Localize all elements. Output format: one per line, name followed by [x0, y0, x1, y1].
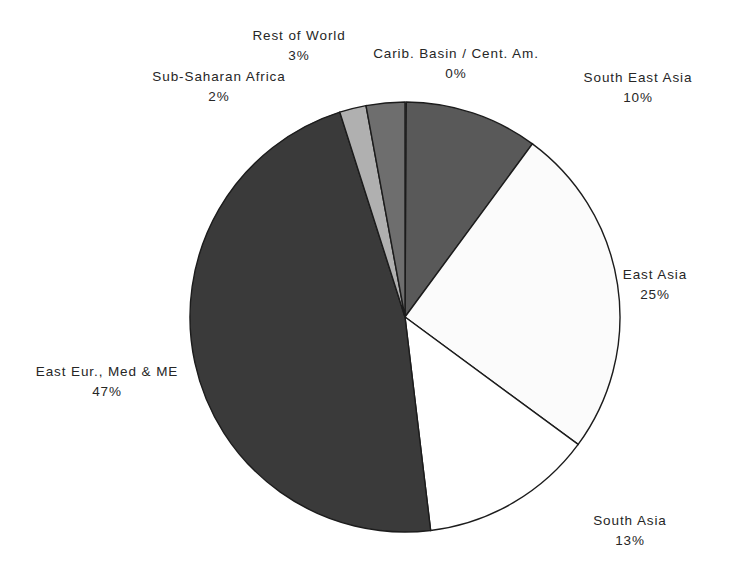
pie-label-name: South Asia	[545, 511, 715, 531]
pie-label-percent: 2%	[109, 87, 329, 107]
pie-label-south-asia: South Asia 13%	[545, 511, 715, 550]
pie-label-percent: 25%	[580, 285, 730, 305]
pie-label-name: Rest of World	[209, 26, 389, 46]
pie-label-sub-saharan-africa: Sub-Saharan Africa 2%	[109, 67, 329, 106]
pie-label-percent: 10%	[538, 88, 738, 108]
pie-label-percent: 47%	[2, 382, 212, 402]
pie-label-east-eur-med-me: East Eur., Med & ME 47%	[2, 362, 212, 401]
pie-label-name: East Eur., Med & ME	[2, 362, 212, 382]
pie-label-south-east-asia: South East Asia 10%	[538, 68, 738, 107]
pie-slice-group	[190, 102, 620, 532]
pie-label-name: South East Asia	[538, 68, 738, 88]
pie-label-name: Sub-Saharan Africa	[109, 67, 329, 87]
pie-label-name: Carib. Basin / Cent. Am.	[311, 44, 601, 64]
pie-label-name: East Asia	[580, 265, 730, 285]
pie-label-east-asia: East Asia 25%	[580, 265, 730, 304]
pie-chart: Rest of World 3% Carib. Basin / Cent. Am…	[0, 0, 740, 581]
pie-label-percent: 13%	[545, 531, 715, 551]
